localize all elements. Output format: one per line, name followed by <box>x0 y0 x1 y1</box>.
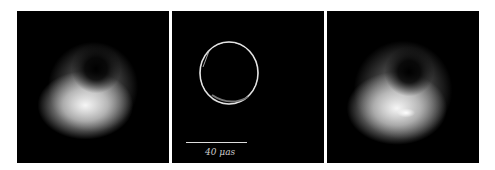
photon-ring-image <box>172 11 324 163</box>
blurred-ring-panel-right <box>327 11 479 163</box>
scale-bar-label: 40 μas <box>205 147 235 157</box>
crescent-image <box>327 11 479 163</box>
thin-ring-panel-center: 40 μas <box>172 11 324 163</box>
blurred-ring-panel-left <box>17 11 169 163</box>
scale-bar <box>186 142 247 143</box>
crescent-image <box>17 11 169 163</box>
